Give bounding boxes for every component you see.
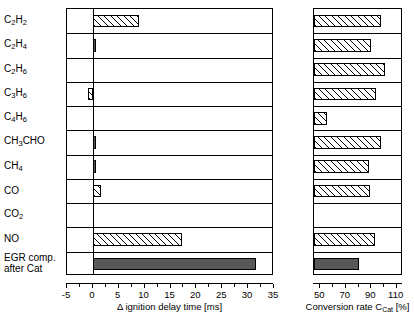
category-label-c3h6: C3H6 bbox=[0, 81, 64, 105]
row-separator bbox=[314, 82, 401, 83]
x-tick bbox=[396, 284, 397, 288]
x-tick-label: -5 bbox=[62, 289, 70, 300]
bar-ignition-delay-ch3cho bbox=[93, 136, 96, 149]
x-tick bbox=[247, 284, 248, 288]
row-separator bbox=[67, 106, 272, 107]
bar-conversion-rate-co bbox=[314, 185, 370, 198]
x-tick-minor bbox=[182, 284, 183, 287]
x-tick-label: 0 bbox=[89, 289, 94, 300]
bar-conversion-rate-egr-comp-after-cat bbox=[314, 258, 359, 271]
row-separator bbox=[67, 33, 272, 34]
x-tick-minor bbox=[332, 284, 333, 287]
x-tick-label: 5 bbox=[115, 289, 120, 300]
bar-conversion-rate-ch3cho bbox=[314, 136, 381, 149]
x-tick-minor bbox=[260, 284, 261, 287]
category-label-column: C2H2C2H4C2H6C3H6C4H6CH3CHOCH4COCO2NOEGR … bbox=[0, 8, 66, 275]
bar-conversion-rate-c2h4 bbox=[314, 39, 371, 52]
row-separator bbox=[67, 58, 272, 59]
x-tick bbox=[144, 284, 145, 288]
x-tick bbox=[345, 284, 346, 288]
x-tick-label: 25 bbox=[216, 289, 227, 300]
bar-conversion-rate-no bbox=[314, 233, 375, 246]
category-label-c2h6: C2H6 bbox=[0, 57, 64, 81]
x-tick-minor bbox=[79, 284, 80, 287]
bar-ignition-delay-ch4 bbox=[93, 160, 96, 173]
row-separator bbox=[314, 155, 401, 156]
bar-ignition-delay-c2h4 bbox=[93, 39, 96, 52]
x-tick-label: 70 bbox=[339, 289, 350, 300]
x-axis-title-ignition-delay: Δ ignition delay time [ms] bbox=[66, 301, 273, 312]
row-separator bbox=[314, 106, 401, 107]
panel-ignition-delay bbox=[66, 8, 273, 275]
category-label-egr-comp-after-cat: EGR comp.after Cat bbox=[0, 251, 64, 275]
row-separator bbox=[67, 155, 272, 156]
x-tick-label: 50 bbox=[314, 289, 325, 300]
category-label-c2h2: C2H2 bbox=[0, 8, 64, 32]
row-separator bbox=[314, 33, 401, 34]
bar-conversion-rate-c2h2 bbox=[314, 15, 381, 28]
x-tick bbox=[319, 284, 320, 288]
x-tick-label: 110 bbox=[388, 289, 403, 300]
row-separator bbox=[314, 203, 401, 204]
bar-conversion-rate-c3h6 bbox=[314, 88, 376, 101]
row-separator bbox=[67, 82, 272, 83]
x-tick bbox=[195, 284, 196, 288]
bar-conversion-rate-c2h6 bbox=[314, 63, 385, 76]
x-tick-minor bbox=[383, 284, 384, 287]
row-separator bbox=[67, 252, 272, 253]
x-tick bbox=[118, 284, 119, 288]
x-tick bbox=[66, 284, 67, 288]
bar-ignition-delay-c3h6 bbox=[88, 88, 93, 101]
x-tick-label: 15 bbox=[164, 289, 175, 300]
row-separator bbox=[67, 227, 272, 228]
row-separator bbox=[314, 227, 401, 228]
row-separator bbox=[67, 179, 272, 180]
row-separator bbox=[314, 130, 401, 131]
x-tick bbox=[221, 284, 222, 288]
x-tick bbox=[170, 284, 171, 288]
bar-ignition-delay-co bbox=[93, 185, 101, 198]
x-tick-label: 35 bbox=[268, 289, 279, 300]
x-tick-minor bbox=[234, 284, 235, 287]
x-tick bbox=[370, 284, 371, 288]
x-tick-minor bbox=[131, 284, 132, 287]
row-separator bbox=[67, 130, 272, 131]
x-tick-minor bbox=[105, 284, 106, 287]
bar-ignition-delay-c2h2 bbox=[93, 15, 140, 28]
category-label-ch4: CH4 bbox=[0, 154, 64, 178]
category-label-co2: CO2 bbox=[0, 202, 64, 226]
category-label-ch3cho: CH3CHO bbox=[0, 129, 64, 153]
x-tick bbox=[92, 284, 93, 288]
x-tick-label: 20 bbox=[190, 289, 201, 300]
category-label-c2h4: C2H4 bbox=[0, 32, 64, 56]
x-tick-minor bbox=[358, 284, 359, 287]
row-separator bbox=[314, 179, 401, 180]
x-tick bbox=[273, 284, 274, 288]
x-tick-minor bbox=[208, 284, 209, 287]
row-separator bbox=[314, 58, 401, 59]
category-label-c4h6: C4H6 bbox=[0, 105, 64, 129]
category-label-co: CO bbox=[0, 178, 64, 202]
bar-conversion-rate-c4h6 bbox=[314, 112, 327, 125]
x-axis-ignition-delay: -505101520253035 bbox=[66, 283, 273, 284]
category-label-no: NO bbox=[0, 226, 64, 250]
x-axis-conversion-rate: 507090110 bbox=[313, 283, 402, 284]
row-separator bbox=[314, 252, 401, 253]
x-axis-title-conversion-rate: Conversion rate CCat [%] bbox=[295, 301, 414, 312]
x-tick-label: 90 bbox=[365, 289, 376, 300]
x-tick-label: 10 bbox=[138, 289, 149, 300]
panel-conversion-rate bbox=[313, 8, 402, 275]
x-tick-minor bbox=[157, 284, 158, 287]
bar-conversion-rate-ch4 bbox=[314, 160, 369, 173]
row-separator bbox=[67, 203, 272, 204]
bar-ignition-delay-egr-comp-after-cat bbox=[93, 258, 256, 271]
bar-ignition-delay-no bbox=[93, 233, 183, 246]
x-tick-label: 30 bbox=[242, 289, 253, 300]
